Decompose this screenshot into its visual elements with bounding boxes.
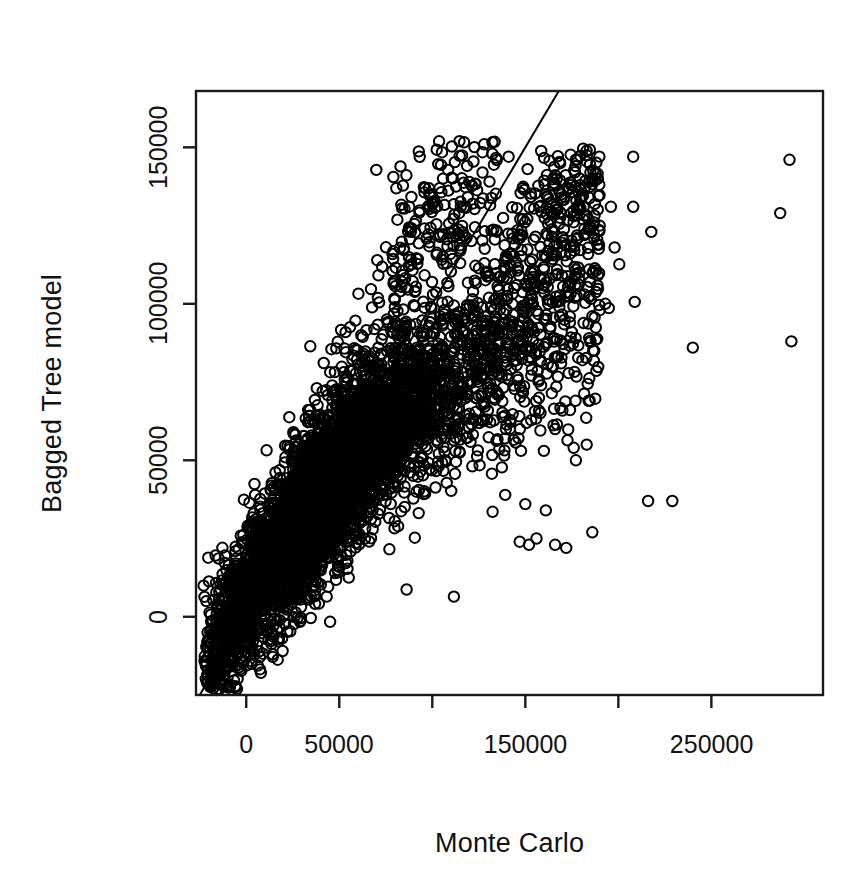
y-tick-label-100000: 100000: [144, 262, 173, 345]
x-axis-title: Monte Carlo: [435, 828, 584, 859]
y-tick-label-0: 0: [144, 610, 173, 624]
scatter-plot-figure: Bagged Tree model Monte Carlo 0 50000 10…: [0, 0, 863, 890]
x-tick-label-50000: 50000: [304, 730, 374, 759]
x-tick-label-250000: 250000: [670, 730, 753, 759]
x-tick-label-150000: 150000: [484, 730, 567, 759]
x-tick-label-0: 0: [239, 730, 253, 759]
y-axis-title: Bagged Tree model: [37, 273, 68, 512]
y-tick-label-150000: 150000: [144, 105, 173, 188]
y-tick-label-50000: 50000: [144, 426, 173, 496]
